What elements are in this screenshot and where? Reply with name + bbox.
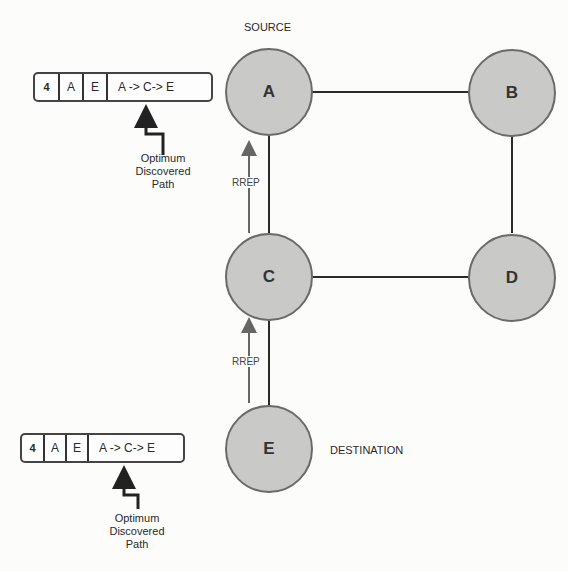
optimum-path-note-top: Optimum Discovered Path: [123, 152, 203, 191]
destination-cell: E: [84, 74, 108, 100]
hop-count-cell: 4: [22, 435, 45, 461]
node-d-label: D: [506, 268, 518, 288]
route-table-top: 4 A E A -> C-> E: [33, 72, 213, 102]
rrep-label-c-a: RREP: [232, 177, 260, 188]
optimum-path-note-bottom: Optimum Discovered Path: [97, 512, 177, 551]
node-d[interactable]: D: [468, 234, 556, 322]
node-e-label: E: [263, 439, 274, 459]
rrep-label-e-c: RREP: [232, 356, 260, 367]
node-c[interactable]: C: [225, 233, 313, 321]
destination-label: DESTINATION: [330, 444, 403, 456]
source-cell: A: [60, 74, 84, 100]
node-c-label: C: [263, 267, 275, 287]
node-b[interactable]: B: [468, 49, 556, 137]
path-pointer-bottom: [124, 477, 138, 509]
path-pointer-top: [146, 116, 163, 155]
node-b-label: B: [506, 83, 518, 103]
node-a-label: A: [263, 82, 275, 102]
source-cell: A: [45, 435, 67, 461]
destination-cell: E: [67, 435, 89, 461]
source-label: SOURCE: [244, 21, 291, 33]
node-e[interactable]: E: [225, 405, 313, 493]
hop-count-cell: 4: [35, 74, 60, 100]
route-table-bottom: 4 A E A -> C-> E: [20, 433, 185, 463]
node-a[interactable]: A: [225, 48, 313, 136]
path-cell: A -> C-> E: [89, 435, 183, 461]
path-cell: A -> C-> E: [108, 74, 211, 100]
